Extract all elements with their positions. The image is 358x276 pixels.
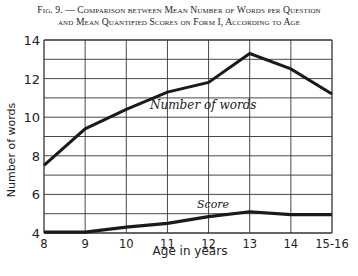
y-tick-label: 10	[23, 110, 40, 125]
data-series	[44, 54, 332, 233]
y-axis-label-text: Number of words	[5, 103, 18, 198]
x-axis-label: Age in years	[130, 244, 250, 258]
line-chart: 468101214 89101112131415-16 Number of wo…	[0, 0, 358, 276]
y-tick-label: 14	[23, 33, 40, 48]
x-tick-label: 9	[81, 237, 88, 251]
x-tick-label: 15-16	[315, 237, 348, 251]
score-series-label: Score	[197, 198, 230, 211]
x-tick-label: 8	[40, 237, 47, 251]
y-tick-label: 12	[23, 72, 40, 87]
y-tick-label: 6	[32, 187, 40, 202]
words-series-label: Number of words	[149, 98, 257, 112]
x-tick-label: 14	[284, 237, 299, 251]
y-axis-label: Number of words	[4, 95, 18, 205]
y-tick-label: 8	[32, 149, 40, 164]
y-axis-ticks: 468101214	[23, 33, 40, 241]
score-line	[44, 212, 332, 232]
y-tick-label: 4	[32, 226, 40, 241]
